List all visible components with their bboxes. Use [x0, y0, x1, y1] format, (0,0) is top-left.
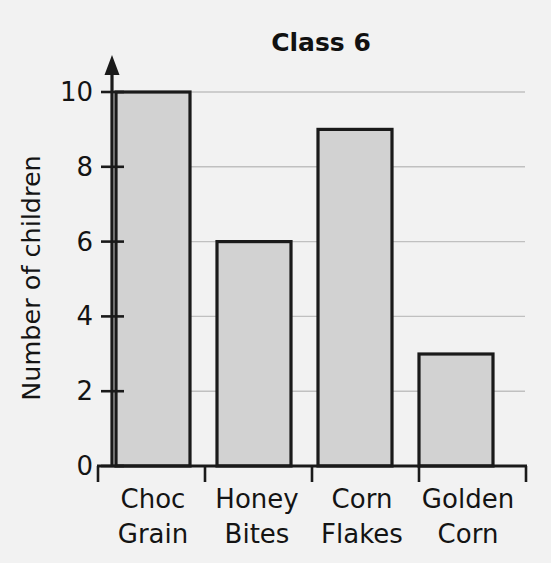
chart-canvas: Class 6 [0, 0, 551, 563]
y-tick-label-6: 6 [76, 227, 93, 257]
bar-honey-bites [217, 242, 291, 466]
bar-corn-flakes [318, 129, 392, 466]
x-label-corn-flakes-line1: Corn [332, 484, 393, 514]
y-tick-label-2: 2 [76, 376, 93, 406]
y-axis-title: Number of children [16, 155, 46, 401]
y-tick-label-4: 4 [76, 301, 93, 331]
y-tick-label-8: 8 [76, 152, 93, 182]
x-label-golden-corn-line2: Corn [438, 519, 499, 549]
y-tick-label-10: 10 [60, 77, 93, 107]
y-tick-label-0: 0 [76, 451, 93, 481]
x-label-honey-bites-line1: Honey [215, 484, 298, 514]
x-label-choc-grain-line2: Grain [118, 519, 188, 549]
bar-golden-corn [419, 354, 493, 466]
x-label-corn-flakes-line2: Flakes [321, 519, 403, 549]
bar-choc-grain [116, 92, 190, 466]
chart-title: Class 6 [271, 28, 371, 57]
x-label-golden-corn-line1: Golden [422, 484, 514, 514]
bar-chart: Class 6 [0, 0, 551, 563]
x-label-honey-bites-line2: Bites [225, 519, 290, 549]
x-label-choc-grain-line1: Choc [121, 484, 186, 514]
